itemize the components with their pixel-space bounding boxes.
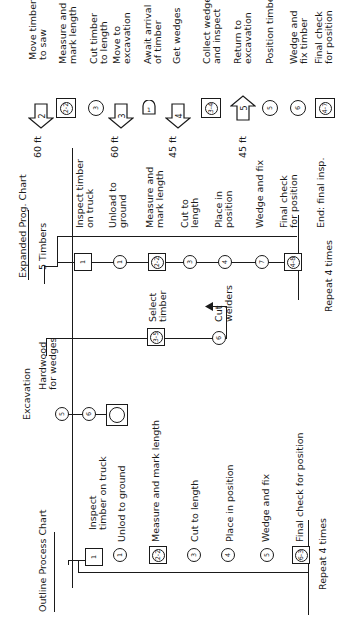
transport-arrow-icon: 3 — [108, 103, 134, 129]
excavation-title: Excavation — [22, 368, 32, 420]
storage-symbol — [106, 404, 128, 426]
repeat-label: Repeat 4 times — [318, 518, 328, 590]
expanded-title: Expanded Prog. Chart — [18, 174, 28, 278]
step-label: Select timber — [148, 291, 168, 322]
step-label: Wedge and fix — [261, 474, 271, 542]
step-label: Inspect timber on truck — [88, 456, 108, 530]
expanded-subtitle: 5 Timbers — [38, 223, 48, 270]
operation-symbol: 4 — [218, 255, 232, 269]
combined-symbol: 4-8 — [284, 253, 302, 271]
step-label: Position timber — [265, 0, 275, 64]
step-label: Wedge and fix — [255, 160, 265, 228]
step-label: Move timber to saw — [28, 0, 48, 60]
operation-symbol: 5 — [260, 548, 274, 562]
step-label: Unload to ground — [108, 182, 128, 228]
end-label: End: final insp. — [316, 158, 326, 228]
transport-arrow-icon: 2 — [28, 103, 54, 129]
return-arrow-icon: 5 — [230, 95, 256, 121]
step-label: Final check for position — [295, 433, 305, 542]
svg-text:5: 5 — [240, 105, 249, 110]
svg-text:2: 2 — [38, 113, 47, 118]
delay-icon: 1 — [141, 100, 157, 116]
operation-symbol: 1 — [113, 548, 127, 562]
distance-label: 60 ft — [33, 136, 43, 158]
distance-label: 60 ft — [110, 136, 120, 158]
operation-symbol: 6 — [290, 100, 306, 116]
step-label: Cut timber to length — [89, 13, 109, 64]
step-label: Place in position — [225, 464, 235, 542]
distance-label: 45 ft — [238, 136, 248, 158]
svg-text:1: 1 — [147, 106, 151, 113]
step-label: Return to excavation — [233, 12, 253, 64]
operation-symbol: 7 — [255, 255, 269, 269]
step-label: Await arrival of timber — [143, 5, 163, 64]
combined-symbol: 2-2 — [148, 253, 166, 271]
step-label: Final check for position — [314, 10, 334, 64]
operation-symbol: 3 — [183, 255, 197, 269]
transport-arrow-icon: 4 — [165, 103, 191, 129]
operation-symbol: 3 — [88, 100, 104, 116]
outline-repeat-bar — [308, 520, 309, 615]
step-label: Get wedges — [172, 8, 182, 64]
inspection-symbol: 1 — [85, 548, 103, 566]
expanded-loop-line — [57, 236, 297, 237]
step-label: Measure and mark length — [58, 3, 78, 64]
combined-symbol: 3-4 — [201, 98, 221, 118]
operation-symbol: 4 — [221, 548, 235, 562]
outline-title: Outline Process Chart — [38, 509, 48, 612]
svg-text:3: 3 — [118, 113, 127, 118]
inspection-symbol: 1 — [74, 253, 92, 271]
step-label: Cut to length — [180, 198, 200, 228]
operation-symbol: 5 — [262, 100, 278, 116]
combined-symbol: 6-3 — [292, 546, 310, 564]
operation-symbol: 3 — [187, 548, 201, 562]
wedges-label: Hardwood for wedges — [38, 337, 58, 390]
operation-symbol: 6 — [212, 331, 226, 345]
step-label: Cut to length — [190, 480, 200, 542]
step-label: Move to excavation — [112, 12, 132, 64]
step-label: Final check for position — [279, 174, 299, 228]
distance-label: 45 ft — [168, 136, 178, 158]
step-label: Place in position — [214, 190, 234, 228]
combined-symbol: 3-5 — [147, 328, 165, 346]
step-label: Inspect timber on truck — [75, 159, 95, 228]
svg-text:4: 4 — [175, 113, 184, 118]
step-label: Cut welders — [214, 285, 234, 322]
step-label: Wedge and fix timber — [289, 11, 309, 64]
repeat-label: Repeat 4 times — [324, 240, 334, 312]
step-label: Unlod to ground — [117, 465, 127, 542]
step-label: Collect wedges and inspect — [202, 0, 222, 64]
combined-symbol: 2-2 — [149, 546, 167, 564]
step-label: Measure and mark length — [145, 167, 165, 228]
outline-loop-line — [78, 572, 308, 573]
combined-symbol: 4-7 — [315, 98, 335, 118]
operation-symbol: 1 — [113, 255, 127, 269]
step-label: Measure and mark length — [151, 420, 161, 542]
combined-symbol: 2-2 — [56, 98, 76, 118]
